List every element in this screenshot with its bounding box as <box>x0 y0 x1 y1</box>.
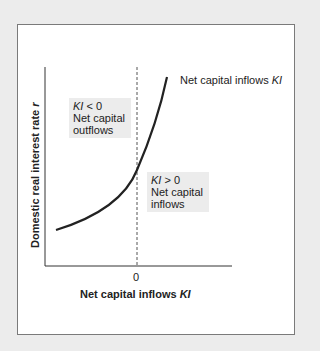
right-annotation-box: KI > 0 Net capital inflows <box>147 172 209 212</box>
x-tick-zero: 0 <box>133 271 139 283</box>
x-axis-label: Net capital inflows KI <box>80 288 191 300</box>
left-annotation-box: KI < 0 Net capital outflows <box>69 98 131 138</box>
curve-label: Net capital inflows KI <box>180 74 282 86</box>
y-axis-label: Domestic real interest rate r <box>29 102 41 248</box>
